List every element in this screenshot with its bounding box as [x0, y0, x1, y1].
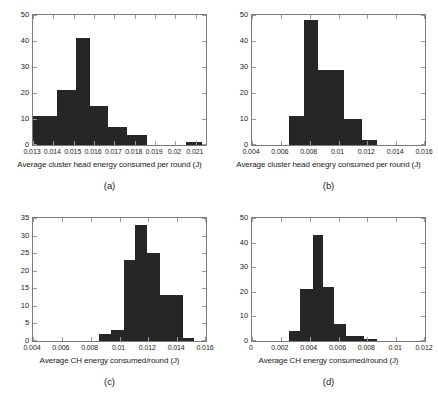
panel-caption-a: (a)	[0, 180, 219, 191]
x-tick-label: 0.021	[186, 148, 203, 155]
x-tick-mark	[135, 141, 136, 145]
y-tick-label: 0	[3, 140, 29, 149]
x-tick-mark	[281, 15, 282, 19]
y-tick-label: 20	[3, 88, 29, 97]
y-tick-label: 10	[222, 311, 248, 320]
panel-c: 0.0040.0060.0080.010.0120.0140.016 05101…	[0, 203, 219, 403]
x-tick-mark	[175, 141, 176, 145]
y-tick-mark	[202, 271, 206, 272]
y-tick-mark	[252, 340, 256, 341]
y-tick-mark	[252, 316, 256, 317]
y-tick-mark	[252, 292, 256, 293]
plot-area-a	[32, 14, 207, 146]
x-tick-label: 0.008	[81, 344, 98, 351]
y-tick-label: 30	[3, 230, 29, 239]
histogram-bar	[124, 260, 136, 341]
y-tick-mark	[252, 119, 256, 120]
y-tick-mark	[421, 340, 425, 341]
histogram-bar	[323, 287, 335, 341]
y-tick-label: 30	[222, 62, 248, 71]
x-tick-label: 0.016	[85, 148, 102, 155]
y-tick-mark	[33, 236, 37, 237]
x-tick-label: 0.004	[300, 344, 317, 351]
y-tick-label: 10	[222, 114, 248, 123]
histogram-figure: 0.0130.0140.0150.0160.0170.0180.0190.020…	[0, 0, 438, 403]
x-tick-label: 0.008	[358, 344, 375, 351]
x-tick-mark	[367, 15, 368, 19]
y-tick-mark	[252, 41, 256, 42]
y-tick-mark	[252, 243, 256, 244]
y-tick-mark	[202, 41, 206, 42]
x-tick-mark	[94, 15, 95, 19]
x-tick-mark	[91, 337, 92, 341]
x-tick-label: 0.017	[105, 148, 122, 155]
x-tick-mark	[367, 218, 368, 222]
x-tick-label: 0.012	[358, 148, 375, 155]
x-tick-label: 0.013	[23, 148, 40, 155]
y-tick-mark	[421, 292, 425, 293]
bars-c	[33, 218, 206, 341]
x-tick-mark	[74, 141, 75, 145]
x-tick-mark	[281, 141, 282, 145]
y-tick-label: 20	[3, 265, 29, 274]
y-tick-mark	[202, 288, 206, 289]
x-tick-label: 0.01	[331, 148, 344, 155]
y-tick-mark	[421, 93, 425, 94]
x-tick-mark	[135, 15, 136, 19]
y-tick-mark	[421, 144, 425, 145]
y-tick-label: 50	[222, 10, 248, 19]
x-tick-mark	[339, 218, 340, 222]
y-tick-label: 30	[222, 262, 248, 271]
y-tick-label: 0	[3, 336, 29, 345]
panel-caption-c: (c)	[0, 376, 219, 387]
histogram-bar	[111, 330, 124, 341]
x-tick-label: 0.019	[146, 148, 163, 155]
x-tick-label: 0.012	[139, 344, 156, 351]
y-tick-mark	[202, 323, 206, 324]
x-tick-mark	[339, 141, 340, 145]
x-tick-label: 0.002	[271, 344, 288, 351]
plot-area-b	[251, 14, 426, 146]
x-tick-mark	[120, 218, 121, 222]
y-tick-mark	[202, 218, 206, 219]
x-tick-mark	[114, 141, 115, 145]
y-tick-mark	[202, 67, 206, 68]
bars-b	[252, 15, 425, 145]
x-tick-label: 0.014	[44, 148, 61, 155]
plot-area-d	[251, 217, 426, 342]
y-tick-mark	[421, 41, 425, 42]
x-tick-mark	[177, 337, 178, 341]
histogram-bar	[127, 135, 147, 145]
panel-caption-d: (d)	[219, 376, 438, 387]
x-tick-label: 0.006	[52, 344, 69, 351]
y-tick-labels-c: 05101520253035	[0, 217, 29, 342]
x-tick-label: 0.014	[387, 148, 404, 155]
x-tick-label: 0.014	[168, 344, 185, 351]
x-tick-mark	[310, 337, 311, 341]
histogram-bar	[344, 119, 361, 145]
x-tick-label: 0.01	[389, 344, 402, 351]
x-tick-label: 0.02	[168, 148, 181, 155]
x-tick-labels-a: 0.0130.0140.0150.0160.0170.0180.0190.020…	[32, 148, 207, 158]
histogram-bar	[318, 70, 344, 145]
histogram-bar	[300, 289, 313, 341]
y-tick-label: 40	[222, 36, 248, 45]
x-tick-labels-c: 0.0040.0060.0080.010.0120.0140.016	[32, 344, 207, 354]
x-tick-label: 0.006	[271, 148, 288, 155]
plot-area-c	[32, 217, 207, 342]
y-tick-label: 40	[222, 237, 248, 246]
y-tick-label: 0	[222, 140, 248, 149]
x-tick-label: 0.01	[112, 344, 125, 351]
x-tick-labels-b: 0.0040.0060.0080.010.0120.0140.016	[251, 148, 426, 158]
x-tick-mark	[281, 218, 282, 222]
y-tick-mark	[202, 93, 206, 94]
y-tick-mark	[252, 218, 256, 219]
x-tick-mark	[367, 141, 368, 145]
histogram-bar	[304, 20, 318, 145]
histogram-bar	[346, 336, 365, 341]
y-tick-mark	[33, 93, 37, 94]
y-tick-mark	[33, 218, 37, 219]
x-tick-mark	[196, 15, 197, 19]
y-tick-mark	[33, 119, 37, 120]
x-tick-label: 0.018	[125, 148, 142, 155]
